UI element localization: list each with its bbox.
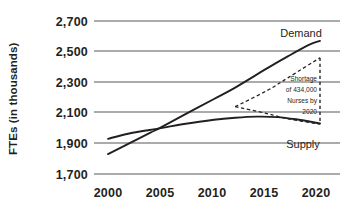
chart-canvas: FTEs (in thousands) 2,700 2,500 2,300 2,… — [0, 0, 356, 211]
x-axis-tick-labels: 2000 2005 2010 2015 2020 — [94, 186, 331, 200]
shortage-annotation-line: Shortage — [290, 75, 317, 83]
x-tick-label: 2000 — [94, 186, 123, 200]
y-tick-label: 1,900 — [56, 137, 88, 151]
y-axis-title: FTEs (in thousands) — [7, 43, 19, 155]
y-tick-label: 2,300 — [56, 76, 88, 90]
x-tick-label: 2020 — [302, 186, 331, 200]
x-tick-label: 2015 — [250, 186, 279, 200]
y-tick-label: 1,700 — [56, 168, 88, 182]
x-tick-label: 2005 — [146, 186, 175, 200]
shortage-annotation-line: 2020 — [302, 108, 317, 115]
y-tick-label: 2,500 — [56, 45, 88, 59]
y-tick-label: 2,100 — [56, 106, 88, 120]
supply-series-label: Supply — [286, 138, 320, 150]
demand-series-label: Demand — [280, 27, 322, 39]
shortage-annotation: Shortage of 434,000 Nurses by 2020 — [286, 75, 318, 115]
shortage-annotation-line: of 434,000 — [286, 86, 317, 93]
y-tick-label: 2,700 — [56, 15, 88, 29]
supply-curve — [108, 117, 320, 139]
nurse-supply-demand-chart: FTEs (in thousands) 2,700 2,500 2,300 2,… — [0, 0, 356, 211]
shortage-annotation-line: Nurses by — [287, 97, 317, 105]
y-axis-tick-labels: 2,700 2,500 2,300 2,100 1,900 1,700 — [56, 15, 88, 182]
x-tick-label: 2010 — [198, 186, 227, 200]
